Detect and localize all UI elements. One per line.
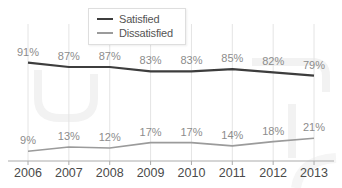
- data-label-satisfied: 85%: [221, 52, 243, 64]
- data-label-satisfied: 87%: [99, 50, 121, 62]
- data-label-dissatisfied: 9%: [20, 134, 36, 146]
- data-label-satisfied: 82%: [262, 55, 284, 67]
- dissatisfied-line-swatch: [97, 32, 113, 34]
- data-label-satisfied: 83%: [140, 54, 162, 66]
- x-tick-label: 2012: [259, 166, 287, 180]
- legend-item-dissatisfied: Dissatisfied: [97, 26, 173, 40]
- data-label-dissatisfied: 13%: [58, 130, 80, 142]
- data-label-satisfied: 87%: [58, 50, 80, 62]
- x-tick-label: 2013: [300, 166, 328, 180]
- chart-container: 2006200720082009201020112012201391%87%87…: [0, 0, 342, 188]
- legend: Satisfied Dissatisfied: [88, 8, 186, 45]
- x-tick-label: 2008: [96, 166, 124, 180]
- x-tick-label: 2010: [178, 166, 206, 180]
- x-tick-label: 2007: [55, 166, 83, 180]
- data-label-dissatisfied: 12%: [99, 131, 121, 143]
- satisfied-line-swatch: [97, 18, 113, 20]
- data-label-dissatisfied: 14%: [221, 129, 243, 141]
- legend-item-satisfied: Satisfied: [97, 12, 173, 26]
- legend-label-satisfied: Satisfied: [119, 12, 159, 26]
- data-label-satisfied: 83%: [180, 54, 202, 66]
- data-label-dissatisfied: 17%: [140, 126, 162, 138]
- x-tick-label: 2006: [14, 166, 42, 180]
- legend-label-dissatisfied: Dissatisfied: [119, 26, 173, 40]
- data-label-satisfied: 91%: [17, 46, 39, 58]
- data-label-satisfied: 79%: [303, 59, 325, 71]
- data-label-dissatisfied: 17%: [180, 126, 202, 138]
- x-tick-label: 2011: [219, 166, 246, 180]
- data-label-dissatisfied: 21%: [303, 121, 325, 133]
- x-tick-label: 2009: [137, 166, 165, 180]
- data-label-dissatisfied: 18%: [262, 125, 284, 137]
